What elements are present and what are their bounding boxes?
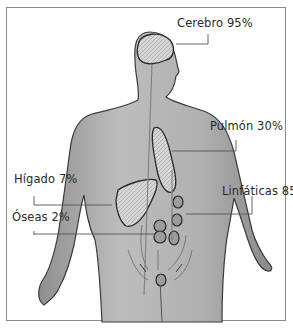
body-illustration (0, 0, 293, 329)
brain-organ (137, 34, 173, 64)
label-cerebro: Cerebro 95% (177, 16, 253, 30)
label-higado: Hígado 7% (14, 172, 77, 186)
label-linfaticas: Linfáticas 85% (222, 184, 293, 198)
label-oseas: Óseas 2% (12, 210, 70, 224)
label-pulmon: Pulmón 30% (210, 119, 283, 133)
